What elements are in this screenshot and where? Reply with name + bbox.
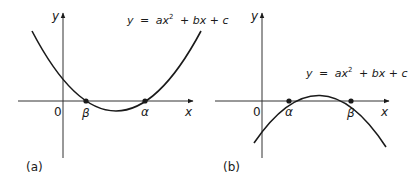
caption-b: (b) (223, 160, 240, 174)
root-point-alpha-b (286, 98, 291, 103)
parabola-b (254, 95, 386, 147)
root-point-alpha-a (142, 98, 147, 103)
root-label-alpha-b: α (285, 105, 293, 119)
x-axis-label-a: x (184, 105, 193, 119)
parabola-a (32, 31, 201, 111)
root-label-beta-b: β (346, 106, 355, 120)
root-label-beta-a: β (81, 106, 90, 120)
x-axis-label-b: x (380, 105, 389, 119)
origin-label-a: 0 (54, 105, 62, 119)
panel-b: y x 0 α β (b) y = ax2 + bx + c (215, 9, 407, 174)
origin-label-b: 0 (253, 105, 261, 119)
panel-a: y x 0 β α (a) y = ax2 + bx + c (18, 9, 228, 174)
root-label-alpha-a: α (141, 105, 149, 119)
y-axis-label-b: y (250, 9, 259, 23)
root-point-beta-a (83, 98, 88, 103)
caption-a: (a) (26, 160, 43, 174)
equation-b: y = ax2 + bx + c (305, 62, 407, 80)
equation-a: y = ax2 + bx + c (126, 9, 228, 27)
root-point-beta-b (348, 98, 353, 103)
y-axis-label-a: y (51, 9, 60, 23)
quadratic-graphs-figure: y x 0 β α (a) y = ax2 + bx + c y x 0 α β… (0, 0, 409, 184)
